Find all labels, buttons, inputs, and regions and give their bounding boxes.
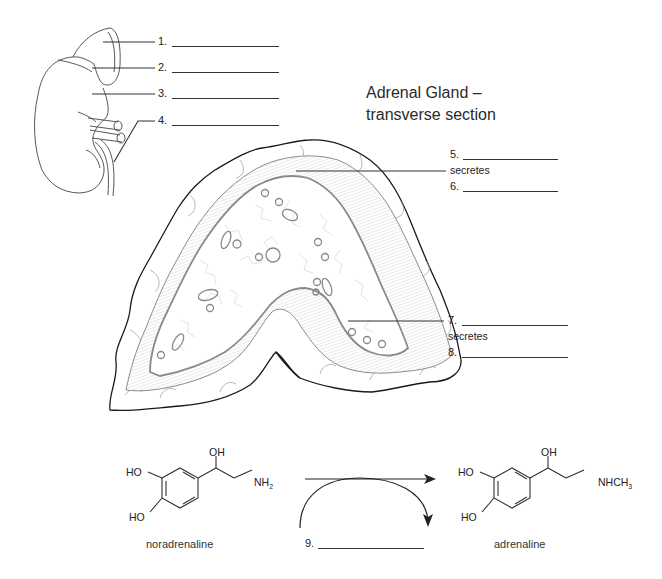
answer-blank-7[interactable] [462,325,568,326]
adrenaline-oh: OH [541,446,557,458]
diagram-title: Adrenal Gland – transverse section [366,82,496,126]
enzyme-curved-arrow [300,478,428,528]
label-number-5: 5. [450,148,459,160]
amine-subscript: 2 [269,483,273,490]
title-line-1: Adrenal Gland – [366,82,496,104]
arrowhead-down-icon [423,514,433,527]
label-number-8: 8. [448,346,457,358]
amine-text: NH [254,476,269,488]
adrenaline-structure [480,456,584,512]
noradrenaline-caption: noradrenaline [146,538,213,550]
label-number-6: 6. [450,180,459,192]
noradrenaline-structure [148,456,252,512]
amine-subscript: 3 [628,483,632,490]
noradrenaline-ho-lower: HO [129,511,145,523]
diagram-canvas [0,0,662,579]
answer-blank-2[interactable] [172,72,279,73]
noradrenaline-ho-upper: HO [126,466,142,478]
label-number-7: 7. [448,314,457,326]
answer-blank-9[interactable] [318,548,424,549]
kidney-leader-lines [92,42,155,162]
adrenaline-amine: NHCH3 [598,476,632,490]
label-number-9: 9. [305,537,314,549]
adrenal-cross-section [110,140,461,411]
noradrenaline-oh: OH [209,446,225,458]
answer-blank-4[interactable] [172,125,279,126]
adrenaline-ho-lower: HO [461,511,477,523]
answer-blank-6[interactable] [463,191,558,192]
title-line-2: transverse section [366,104,496,126]
adrenaline-caption: adrenaline [494,538,545,550]
answer-blank-1[interactable] [172,46,279,47]
label-number-2: 2. [158,61,167,73]
label-number-4: 4. [158,114,167,126]
kidney-illustration [35,28,125,196]
answer-blank-8[interactable] [462,357,568,358]
secretes-label-upper: secretes [450,164,490,176]
adrenaline-ho-upper: HO [458,466,474,478]
label-number-1: 1. [158,35,167,47]
noradrenaline-amine: NH2 [254,476,273,490]
secretes-label-lower: secretes [448,330,488,342]
label-number-3: 3. [158,87,167,99]
answer-blank-5[interactable] [463,159,558,160]
amine-text: NHCH [598,476,628,488]
answer-blank-3[interactable] [172,98,279,99]
